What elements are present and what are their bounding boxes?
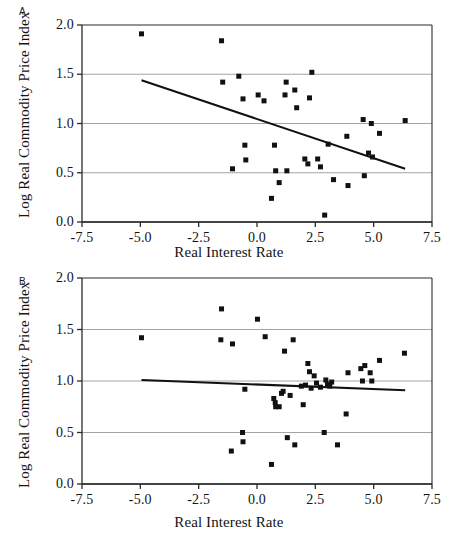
y-tick-label: 0.0 bbox=[36, 477, 74, 491]
data-point bbox=[272, 143, 277, 148]
data-point bbox=[377, 131, 382, 136]
data-point bbox=[329, 380, 334, 385]
data-point bbox=[262, 98, 267, 103]
data-point bbox=[362, 173, 367, 178]
data-point bbox=[312, 373, 317, 378]
x-tick-label: -7.5 bbox=[57, 493, 107, 507]
data-point bbox=[344, 411, 349, 416]
data-point bbox=[219, 38, 224, 43]
data-point bbox=[368, 370, 373, 375]
data-point bbox=[360, 379, 365, 384]
data-point bbox=[230, 341, 235, 346]
panel-a: A Log Real Commodity Price Index Real In… bbox=[0, 0, 458, 270]
data-point bbox=[346, 183, 351, 188]
data-point bbox=[269, 196, 274, 201]
x-tick-label: 5.0 bbox=[349, 493, 399, 507]
x-tick-label: -7.5 bbox=[57, 231, 107, 245]
data-point bbox=[277, 404, 282, 409]
x-tick-label: 0.0 bbox=[232, 493, 282, 507]
y-tick-label: 0.5 bbox=[36, 426, 74, 440]
x-tick-label: 7.5 bbox=[407, 493, 457, 507]
y-tick-label: 1.0 bbox=[36, 117, 74, 131]
y-tick-label: 1.0 bbox=[36, 374, 74, 388]
data-point bbox=[255, 317, 260, 322]
x-tick-label: -2.5 bbox=[174, 231, 224, 245]
panel-a-plot-area bbox=[0, 0, 458, 270]
data-point bbox=[344, 134, 349, 139]
panel-a-svg bbox=[0, 0, 458, 270]
y-tick-label: 0.5 bbox=[36, 166, 74, 180]
data-point bbox=[305, 361, 310, 366]
data-point bbox=[370, 154, 375, 159]
data-point bbox=[402, 351, 407, 356]
data-point bbox=[277, 180, 282, 185]
data-point bbox=[283, 92, 288, 97]
data-point bbox=[220, 80, 225, 85]
data-point bbox=[269, 462, 274, 467]
data-point bbox=[346, 370, 351, 375]
data-point bbox=[256, 92, 261, 97]
data-point bbox=[331, 177, 336, 182]
panel-b: B Log Real Commodity Price Index Real In… bbox=[0, 269, 458, 539]
trend-line bbox=[142, 380, 406, 390]
data-point bbox=[139, 31, 144, 36]
data-point bbox=[241, 96, 246, 101]
data-point bbox=[284, 168, 289, 173]
data-point bbox=[315, 156, 320, 161]
data-point bbox=[335, 442, 340, 447]
y-tick-label: 1.5 bbox=[36, 67, 74, 81]
data-point bbox=[291, 337, 296, 342]
data-point bbox=[361, 117, 366, 122]
data-point bbox=[305, 161, 310, 166]
data-point bbox=[318, 164, 323, 169]
data-point bbox=[302, 156, 307, 161]
figure-container: A Log Real Commodity Price Index Real In… bbox=[0, 0, 458, 539]
data-point bbox=[322, 213, 327, 218]
data-point bbox=[230, 166, 235, 171]
data-point bbox=[273, 168, 278, 173]
data-point bbox=[292, 88, 297, 93]
data-point bbox=[288, 393, 293, 398]
data-point bbox=[229, 449, 234, 454]
y-tick-label: 2.0 bbox=[36, 18, 74, 32]
data-point bbox=[403, 118, 408, 123]
x-tick-label: -5.0 bbox=[115, 493, 165, 507]
data-point bbox=[369, 379, 374, 384]
data-point bbox=[303, 383, 308, 388]
x-tick-label: -2.5 bbox=[174, 493, 224, 507]
data-point bbox=[263, 334, 268, 339]
data-point bbox=[369, 121, 374, 126]
panel-b-x-axis-label: Real Interest Rate bbox=[0, 514, 458, 531]
data-point bbox=[326, 142, 331, 147]
data-point bbox=[218, 337, 223, 342]
data-point bbox=[282, 349, 287, 354]
data-point bbox=[377, 358, 382, 363]
data-point bbox=[309, 386, 314, 391]
data-point bbox=[309, 70, 314, 75]
y-tick-label: 2.0 bbox=[36, 271, 74, 285]
x-tick-label: 5.0 bbox=[349, 231, 399, 245]
data-point bbox=[139, 335, 144, 340]
data-point bbox=[242, 387, 247, 392]
data-point bbox=[281, 389, 286, 394]
data-point bbox=[362, 363, 367, 368]
x-tick-label: 0.0 bbox=[232, 231, 282, 245]
x-tick-label: 7.5 bbox=[407, 231, 457, 245]
data-point bbox=[318, 385, 323, 390]
data-point bbox=[294, 105, 299, 110]
data-point bbox=[285, 435, 290, 440]
data-point bbox=[284, 80, 289, 85]
data-point bbox=[301, 402, 306, 407]
x-tick-label: -5.0 bbox=[115, 231, 165, 245]
data-point bbox=[240, 430, 245, 435]
data-point bbox=[307, 95, 312, 100]
data-point bbox=[242, 143, 247, 148]
data-point bbox=[322, 430, 327, 435]
panel-a-x-axis-label: Real Interest Rate bbox=[0, 244, 458, 261]
data-point bbox=[236, 74, 241, 79]
data-point bbox=[241, 439, 246, 444]
y-tick-label: 1.5 bbox=[36, 323, 74, 337]
x-tick-label: 2.5 bbox=[290, 231, 340, 245]
x-tick-label: 2.5 bbox=[290, 493, 340, 507]
y-tick-label: 0.0 bbox=[36, 215, 74, 229]
